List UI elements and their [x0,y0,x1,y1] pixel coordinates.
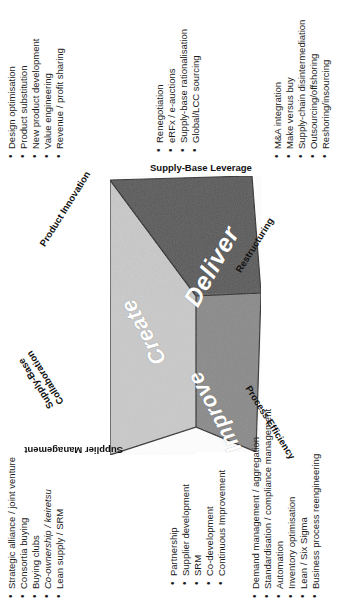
list-item: Co-development [204,470,216,585]
list-item: Supply-base rationalisation [178,29,190,152]
list-item: eRFx / e-auctions [166,29,178,152]
bullet-list-supply-base-leverage: Renegotiation eRFx / e-auctions Supply-b… [154,29,202,152]
list-item: Revenue / profit sharing [54,39,66,158]
bullet-list-supply-base-collaboration-items: Strategic alliance / joint venture Conso… [6,457,66,598]
list-item: Outsourcing/offshoring [308,20,320,158]
bullet-list-process-efficiency: Demand management / aggregation Standard… [250,409,322,598]
list-item: New product development [30,39,42,158]
list-item: Reshoring/insourcing [320,20,332,158]
list-item: Buying clubs [30,457,42,598]
list-item: SRM [192,470,204,585]
bullet-list-product-innovation-items: Design optimisation Product substitution… [6,39,66,158]
edge-label-supply-base-leverage: Supply-Base Leverage [150,163,252,174]
list-item: Design optimisation [6,39,18,158]
list-item: Lean supply / SRM [54,457,66,598]
bullet-list-restructuring: M&A integration Make versus buy Supply-c… [272,20,332,158]
list-item: Value engineering [42,39,54,158]
list-item: Demand management / aggregation [250,409,262,598]
list-item: Supplier development [180,470,192,585]
bullet-list-restructuring-items: M&A integration Make versus buy Supply-c… [272,20,332,158]
list-item: Product substitution [18,39,30,158]
bullet-list-supply-base-leverage-items: Renegotiation eRFx / e-auctions Supply-b… [154,29,202,152]
list-item: Renegotiation [154,29,166,152]
list-item: Inventory optimisation [286,409,298,598]
list-item: Make versus buy [284,20,296,158]
list-item: Co-ownership / keiretsu [42,457,54,598]
list-item: Business process reengineering [310,409,322,598]
list-item: M&A integration [272,20,284,158]
diagram-canvas: Create Deliver Improve Supply-Base Lever… [0,0,350,599]
list-item: Continuous Improvement [216,470,228,585]
bullet-list-process-efficiency-items: Demand management / aggregation Standard… [250,409,322,598]
bullet-list-supplier-management: Partnership Supplier development SRM Co-… [168,470,228,585]
list-item: Lean / Six Sigma [298,409,310,598]
list-item: Supply-chain disintermediation [296,20,308,158]
bullet-list-supplier-management-items: Partnership Supplier development SRM Co-… [168,470,228,585]
list-item: Strategic alliance / joint venture [6,457,18,598]
bullet-list-product-innovation: Design optimisation Product substitution… [6,39,66,158]
edge-label-supplier-management: Supplier Management [24,444,123,455]
list-item: Consortia buying [18,457,30,598]
bullet-list-supply-base-collaboration: Strategic alliance / joint venture Conso… [6,457,66,598]
list-item: Partnership [168,470,180,585]
list-item: Global/LCC sourcing [190,29,202,152]
list-item: Automation [274,409,286,598]
list-item: Standardisation / compliance management [262,409,274,598]
